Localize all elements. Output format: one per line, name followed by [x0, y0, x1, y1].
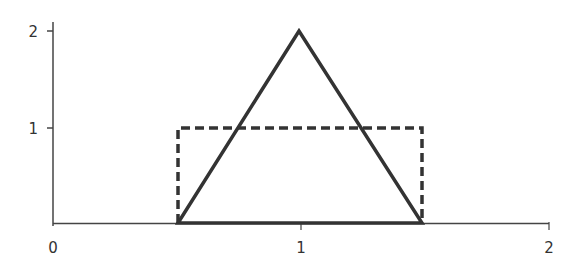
dashed-rectangle [178, 128, 422, 223]
y-tick-label-2: 2 [28, 23, 38, 41]
chart-canvas: 2 1 0 1 2 [0, 0, 582, 264]
x-tick-label-2: 2 [544, 239, 554, 257]
x-tick-label-1: 1 [296, 239, 306, 257]
y-tick-label-1: 1 [28, 120, 38, 138]
x-tick-label-0: 0 [48, 239, 58, 257]
